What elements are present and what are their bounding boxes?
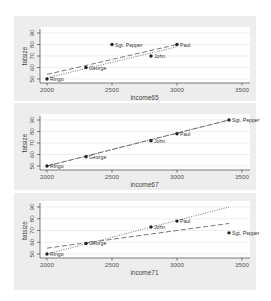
chart-figure: 50607080902000250030003500income65fatsiz… [0, 0, 271, 301]
x-tick-label: 2500 [105, 86, 119, 93]
y-tick-label: 90 [28, 29, 35, 36]
data-point [175, 219, 178, 222]
x-tick-label: 3000 [170, 173, 184, 180]
y-tick-label: 60 [28, 151, 35, 158]
y-tick-label: 80 [28, 215, 35, 222]
x-tick-label: 3500 [235, 261, 249, 268]
x-tick-label: 3000 [170, 261, 184, 268]
y-tick-label: 80 [28, 128, 35, 135]
data-point [84, 155, 87, 158]
data-point [175, 132, 178, 135]
x-tick-label: 2000 [40, 86, 54, 93]
y-tick-label: 60 [28, 64, 35, 71]
point-label: John [154, 53, 165, 59]
y-tick-label: 90 [28, 116, 35, 123]
data-point [45, 164, 48, 167]
point-label: Paul [180, 218, 190, 224]
x-axis-label: income67 [130, 181, 159, 188]
data-point [110, 43, 113, 46]
point-label: George [89, 65, 106, 71]
scatter-panel-income67: 50607080902000250030003500income67fatsiz… [14, 103, 260, 190]
y-tick-label: 70 [28, 227, 35, 234]
x-tick-label: 2500 [105, 261, 119, 268]
point-label: George [89, 240, 106, 246]
y-tick-label: 70 [28, 139, 35, 146]
data-point [227, 231, 230, 234]
scatter-panel-income71: 50607080902000250030003500income71fatsiz… [14, 193, 260, 290]
data-point [84, 66, 87, 69]
point-label: Paul [180, 42, 190, 48]
y-tick-label: 50 [28, 250, 35, 257]
x-axis-label: income65 [130, 94, 159, 101]
point-label: George [89, 154, 106, 160]
x-tick-label: 3500 [235, 173, 249, 180]
x-tick-label: 2000 [40, 173, 54, 180]
y-tick-label: 90 [28, 203, 35, 210]
y-axis-label: fatsize [21, 133, 28, 152]
x-axis-label: income71 [130, 269, 159, 276]
data-point [175, 43, 178, 46]
y-tick-label: 80 [28, 41, 35, 48]
point-label: Sgt. Pepper [115, 42, 143, 48]
x-tick-label: 3000 [170, 86, 184, 93]
point-label: Ringo [50, 76, 64, 82]
y-tick-label: 50 [28, 162, 35, 169]
point-label: John [154, 224, 165, 230]
data-point [149, 54, 152, 57]
point-label: Paul [180, 131, 190, 137]
scatter-panel-income65: 50607080902000250030003500income65fatsiz… [14, 16, 256, 101]
point-label: Sgt. Pepper [232, 117, 260, 123]
point-label: John [154, 138, 165, 144]
data-point [149, 139, 152, 142]
x-tick-label: 2500 [105, 173, 119, 180]
point-label: Sgt. Pepper [232, 230, 260, 236]
plot-area [40, 201, 250, 258]
point-label: Ringo [50, 163, 64, 169]
x-tick-label: 2000 [40, 261, 54, 268]
data-point [227, 118, 230, 121]
x-tick-label: 3500 [235, 86, 249, 93]
y-tick-label: 50 [28, 75, 35, 82]
chart-canvas: 50607080902000250030003500income65fatsiz… [0, 0, 271, 301]
y-axis-label: fatsize [21, 221, 28, 240]
point-label: Ringo [50, 251, 64, 257]
data-point [149, 225, 152, 228]
data-point [45, 252, 48, 255]
data-point [84, 242, 87, 245]
y-tick-label: 70 [28, 52, 35, 59]
y-tick-label: 60 [28, 238, 35, 245]
plot-area [40, 27, 250, 83]
data-point [45, 77, 48, 80]
y-axis-label: fatsize [21, 46, 28, 65]
